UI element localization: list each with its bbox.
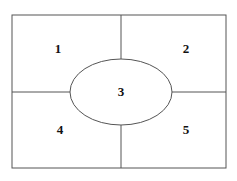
region-label-5: 5	[183, 122, 190, 137]
region-label-4: 4	[57, 122, 64, 137]
diagram-canvas: 1 2 3 4 5	[0, 0, 237, 181]
region-partition-diagram: 1 2 3 4 5	[0, 0, 237, 181]
region-label-2: 2	[183, 41, 190, 56]
region-label-1: 1	[55, 41, 62, 56]
region-label-3: 3	[118, 84, 125, 99]
